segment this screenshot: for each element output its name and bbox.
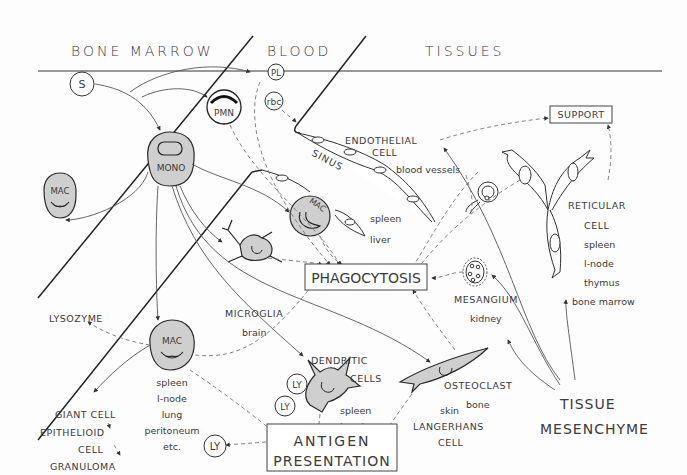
epithelioid-label-2: CELL bbox=[78, 444, 103, 455]
svg-text:PL: PL bbox=[271, 68, 281, 78]
mac-location-4: peritoneum bbox=[144, 425, 199, 436]
sinus-edge bbox=[252, 170, 262, 172]
blood-vessels-label: blood vessels bbox=[396, 164, 460, 175]
tissue-mesenchyme-label-1: TISSUE bbox=[559, 396, 616, 412]
microglia-cell bbox=[222, 220, 282, 262]
lymphocyte-antigen: LY bbox=[204, 435, 226, 457]
svg-text:MAC: MAC bbox=[51, 186, 70, 196]
dendritic-location-1: spleen bbox=[340, 405, 371, 416]
antigen-label-1: ANTIGEN bbox=[294, 433, 371, 449]
reticular-cell bbox=[502, 150, 594, 278]
lymphocyte-dendritic-2: LY bbox=[275, 396, 295, 416]
langerhans-label-1: LANGERHANS bbox=[413, 421, 484, 432]
dendritic-cell bbox=[306, 358, 360, 412]
red-blood-cell: rbc bbox=[265, 92, 283, 110]
langerhans-location: skin bbox=[440, 405, 459, 416]
osteoclast-cell bbox=[463, 258, 487, 286]
diagram-canvas: BONE MARROW BLOOD TISSUES S PL rbc PMN M… bbox=[0, 0, 687, 475]
stem-cell: S bbox=[70, 72, 94, 96]
svg-text:LY: LY bbox=[210, 441, 221, 452]
epithelioid-label-1: EPITHELIOID bbox=[40, 427, 105, 438]
mac-location-1: spleen bbox=[156, 377, 187, 388]
svg-text:MAC: MAC bbox=[162, 336, 182, 346]
endothelial-label-1: ENDOTHELIAL bbox=[345, 135, 417, 146]
macrophage-sinus: MAC bbox=[290, 196, 330, 236]
monocyte: MONO bbox=[148, 132, 195, 186]
endothelial-label-2: CELL bbox=[372, 147, 397, 158]
region-bone-marrow: BONE MARROW bbox=[71, 43, 214, 59]
pmn-cell: PMN bbox=[207, 90, 241, 124]
langerhans-label-2: CELL bbox=[438, 437, 463, 448]
macrophage-marrow: MAC bbox=[44, 173, 76, 218]
svg-text:LY: LY bbox=[292, 380, 302, 390]
mac-location-5: etc. bbox=[163, 441, 181, 452]
bone-label: bone bbox=[466, 399, 490, 410]
svg-text:LY: LY bbox=[280, 402, 290, 412]
mesangium-label: MESANGIUM bbox=[454, 294, 518, 305]
brain-label: brain bbox=[242, 327, 266, 338]
reticular-label-1: RETICULAR bbox=[568, 200, 626, 211]
sinus-location-liver: liver bbox=[370, 234, 391, 245]
dendritic-label-2: CELLS bbox=[350, 373, 382, 384]
divider-marrow-blood bbox=[38, 36, 253, 298]
reticular-location-1: spleen bbox=[584, 239, 615, 250]
microglia-label: MICROGLIA bbox=[225, 308, 283, 319]
mac-location-3: lung bbox=[162, 409, 183, 420]
lymphocyte-dendritic-1: LY bbox=[287, 374, 307, 394]
antigen-label-2: PRESENTATION bbox=[273, 453, 390, 469]
svg-text:rbc: rbc bbox=[267, 97, 281, 107]
svg-text:PMN: PMN bbox=[214, 108, 234, 118]
tissue-mesenchyme-label-2: MESENCHYME bbox=[540, 421, 649, 437]
phagocytosis-label: PHAGOCYTOSIS bbox=[311, 270, 421, 286]
giant-cell-label: GIANT CELL bbox=[55, 409, 116, 420]
mesangium-cell bbox=[466, 182, 498, 214]
svg-text:MONO: MONO bbox=[157, 163, 186, 173]
svg-text:S: S bbox=[79, 78, 86, 91]
dendritic-label-1: DENDRITIC bbox=[311, 355, 368, 366]
reticular-label-2: CELL bbox=[584, 220, 609, 231]
macrophage-tissue: MAC bbox=[150, 320, 194, 370]
endothelium-edge bbox=[295, 126, 300, 133]
osteoclast-label: OSTEOCLAST bbox=[444, 380, 512, 391]
region-tissues: TISSUES bbox=[425, 43, 504, 59]
mononuclear-phagocyte-diagram: BONE MARROW BLOOD TISSUES S PL rbc PMN M… bbox=[0, 0, 687, 475]
sinus-location-spleen: spleen bbox=[370, 213, 401, 224]
reticular-location-3: thymus bbox=[584, 277, 620, 288]
granuloma-label: GRANULOMA bbox=[50, 461, 116, 472]
support-label: SUPPORT bbox=[557, 109, 604, 120]
endothelial-cells bbox=[262, 133, 435, 236]
reticular-location-4: bone marrow bbox=[572, 296, 635, 307]
reticular-location-2: l-node bbox=[584, 258, 614, 269]
mac-location-2: l-node bbox=[157, 393, 187, 404]
region-blood: BLOOD bbox=[267, 43, 331, 59]
platelet: PL bbox=[268, 64, 284, 80]
lysozyme-label: LYSOZYME bbox=[49, 313, 103, 324]
kidney-label: kidney bbox=[470, 313, 502, 324]
